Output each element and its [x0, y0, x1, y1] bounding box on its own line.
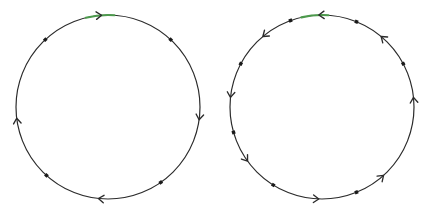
trajectory-circle: [16, 15, 200, 199]
trajectory-circle: [230, 15, 414, 199]
trajectory-point-marker: [401, 62, 406, 67]
trajectory-point-marker: [231, 130, 235, 134]
trajectory-point-marker: [354, 190, 358, 194]
circular-trajectory-canvas: [0, 0, 424, 213]
trajectory-point-marker: [238, 62, 243, 67]
figure-root: [0, 0, 424, 213]
trajectory-point-marker: [354, 19, 358, 23]
circles-layer: [16, 15, 414, 199]
trajectory-highlight-arc: [301, 15, 328, 17]
markers-layer: [14, 11, 418, 203]
trajectory-point-marker: [288, 18, 292, 22]
